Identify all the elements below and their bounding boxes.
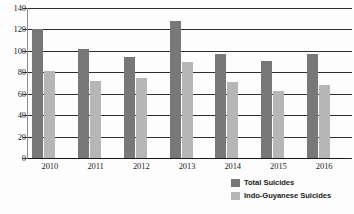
y-axis-tick-mark-right (347, 29, 352, 30)
legend-item-total-suicides: Total Suicides (231, 177, 351, 188)
y-axis-tick-mark-right (347, 158, 352, 159)
bar-2016-indo (319, 85, 330, 158)
bar-2012-total (124, 57, 135, 158)
y-axis-tick-mark-right (347, 137, 352, 138)
bar-2015-indo (273, 91, 284, 159)
x-axis-tick-label: 2016 (301, 161, 347, 172)
suicides-bar-chart: 020406080100120140 201020112012201320142… (0, 0, 354, 214)
x-axis-tick-label: 2014 (210, 161, 256, 172)
x-axis-tick-labels: 2010201120122013201420152016 (27, 161, 347, 175)
y-axis-tick-mark-right (347, 94, 352, 95)
legend-swatch-icon-total (231, 179, 240, 187)
bar-2013-total (170, 21, 181, 158)
legend-label-indo: Indo-Guyanese Suicides (244, 190, 331, 201)
x-axis-tick-label: 2015 (256, 161, 302, 172)
y-axis-tick-labels: 020406080100120140 (0, 0, 26, 176)
bars-group (27, 8, 347, 158)
bar-2010-indo (44, 71, 55, 158)
x-axis-tick-label: 2012 (118, 161, 164, 172)
y-axis-tick-mark-right (347, 51, 352, 52)
x-axis-tick-label: 2013 (164, 161, 210, 172)
bar-2014-indo (227, 82, 238, 158)
bar-2012-indo (136, 78, 147, 158)
y-axis-tick-mark-right (347, 72, 352, 73)
x-axis-tick-label: 2011 (73, 161, 119, 172)
plot-area: 020406080100120140 201020112012201320142… (0, 0, 354, 176)
y-axis-tick-mark-right (347, 8, 352, 9)
bar-2011-indo (90, 81, 101, 158)
bar-2011-total (78, 49, 89, 158)
bar-2010-total (32, 29, 43, 158)
legend-label-total: Total Suicides (244, 177, 294, 188)
bar-2013-indo (182, 62, 193, 158)
x-axis-tick-label: 2010 (27, 161, 73, 172)
bar-2015-total (261, 61, 272, 159)
gridline (27, 158, 347, 159)
bar-2014-total (215, 54, 226, 158)
bar-2016-total (307, 54, 318, 158)
y-axis-tick-mark-right (347, 115, 352, 116)
legend-swatch-icon-indo (231, 192, 240, 200)
legend-item-indo-guyanese-suicides: Indo-Guyanese Suicides (231, 190, 351, 201)
chart-legend: Total Suicides Indo-Guyanese Suicides (231, 177, 351, 203)
